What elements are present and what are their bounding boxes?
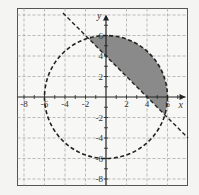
y-tick-label: 6 bbox=[99, 31, 104, 41]
x-axis-label: x bbox=[178, 99, 184, 110]
x-tick-label: 4 bbox=[145, 99, 150, 109]
x-tick-label: -6 bbox=[41, 99, 49, 109]
graph: -8-6-4-2246642-2-4-6-8 x y bbox=[0, 0, 199, 195]
x-tick-label: -2 bbox=[82, 99, 90, 109]
x-tick-label: 2 bbox=[124, 99, 129, 109]
y-tick-label: -6 bbox=[96, 154, 104, 164]
y-tick-label: 4 bbox=[99, 51, 104, 61]
y-tick-label: -8 bbox=[96, 174, 104, 184]
y-tick-label: -4 bbox=[96, 133, 104, 143]
y-axis-label: y bbox=[96, 10, 102, 21]
y-tick-label: 2 bbox=[99, 72, 104, 82]
x-tick-label: 6 bbox=[165, 99, 170, 109]
x-tick-label: -4 bbox=[61, 99, 69, 109]
y-tick-label: -2 bbox=[96, 113, 104, 123]
x-tick-label: -8 bbox=[20, 99, 28, 109]
